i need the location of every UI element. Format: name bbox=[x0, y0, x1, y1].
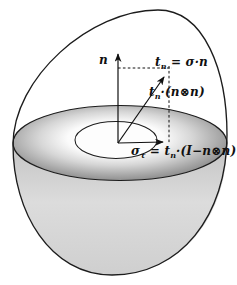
normal-component-rest: ·(n⊗n) bbox=[161, 85, 205, 99]
tangential-sigma: σ bbox=[131, 144, 140, 158]
sphere-diagram bbox=[0, 0, 237, 285]
tangential-eq: = bbox=[145, 144, 164, 158]
normal-component-label: tn·(n⊗n) bbox=[149, 86, 205, 103]
tangential-rest: ·(I−n⊗n) bbox=[176, 144, 236, 158]
tangential-label: στ = tn·(I−n⊗n) bbox=[131, 145, 236, 162]
traction-rest: = σ·n bbox=[167, 55, 208, 69]
normal-axis-label: n bbox=[99, 54, 108, 67]
normal-axis-text: n bbox=[99, 53, 108, 67]
traction-label: tn = σ·n bbox=[155, 56, 208, 73]
traction-sphere-figure: n tn = σ·n tn·(n⊗n) στ = tn·(I−n⊗n) bbox=[0, 0, 237, 285]
